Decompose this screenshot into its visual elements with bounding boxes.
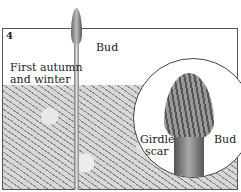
panel-number: 4 (6, 30, 13, 41)
magnified-inset (133, 58, 241, 178)
terminal-bud (71, 8, 82, 44)
magnified-stem (174, 137, 204, 178)
inset-bud-label: Bud (214, 134, 236, 146)
girdle-label-line-2: scar (145, 146, 169, 158)
magnified-bud (164, 73, 214, 139)
bud-label: Bud (96, 42, 118, 54)
caption-line-2: and winter (10, 74, 70, 86)
